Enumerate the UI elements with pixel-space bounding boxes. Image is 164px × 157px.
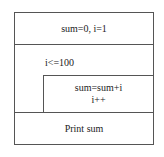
nassi-shneiderman-diagram: sum=0, i=1 i<=100 sum=sum+i i++ Print su… <box>14 12 154 145</box>
output-block: Print sum <box>15 113 153 144</box>
loop-condition: i<=100 <box>45 57 74 68</box>
init-statement: sum=0, i=1 <box>61 23 107 34</box>
while-loop-block: i<=100 sum=sum+i i++ <box>15 45 153 113</box>
loop-statement-1: sum=sum+i <box>75 82 122 94</box>
output-statement: Print sum <box>65 123 104 134</box>
loop-body: sum=sum+i i++ <box>43 75 153 112</box>
init-block: sum=0, i=1 <box>15 13 153 45</box>
loop-statement-2: i++ <box>91 94 105 106</box>
